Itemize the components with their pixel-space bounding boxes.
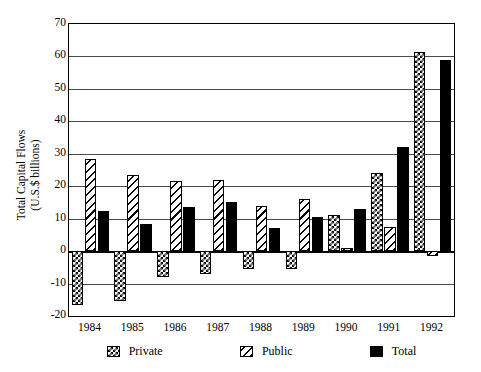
x-axis-tick-label: 1992	[420, 321, 443, 333]
bar-total-1988	[269, 228, 281, 251]
x-axis-tick-label: 1985	[121, 321, 144, 333]
gridline	[69, 284, 454, 285]
y-axis-tick-labels: -20-10010203040506070	[38, 0, 66, 372]
bar-total-1991	[397, 147, 409, 251]
bar-public-1989	[299, 199, 311, 251]
y-axis-tick-label: 0	[40, 244, 66, 256]
bar-public-1984	[85, 159, 97, 251]
bar-total-1992	[440, 60, 452, 251]
x-axis-tick-label: 1984	[78, 321, 101, 333]
y-axis-title-line-1: Total Capital Flows	[15, 130, 29, 221]
bar-public-1986	[170, 181, 182, 251]
gridline	[69, 89, 454, 90]
plot-area	[68, 23, 455, 317]
legend-label: Total	[392, 345, 417, 357]
y-axis-tick-label: 40	[40, 115, 66, 127]
chart-figure: Total Capital Flows (U.S.$ billions) -20…	[0, 0, 481, 372]
bar-total-1987	[226, 202, 238, 251]
legend-label: Public	[262, 345, 293, 357]
y-axis-tick-label: -20	[40, 309, 66, 321]
x-axis-tick-label: 1987	[206, 321, 229, 333]
bar-private-1992	[414, 52, 426, 252]
legend-item-total: Total	[370, 345, 417, 357]
y-axis-tick-label: 30	[40, 147, 66, 159]
bar-public-1990	[341, 248, 353, 251]
y-axis-tick-label: 10	[40, 212, 66, 224]
y-axis-tick-label: 20	[40, 179, 66, 191]
legend-swatch-public-icon	[240, 346, 253, 357]
gridline	[69, 121, 454, 122]
x-axis-tick-label: 1990	[335, 321, 358, 333]
legend-item-public: Public	[240, 345, 293, 357]
y-axis-tick-label: 70	[40, 17, 66, 29]
x-axis-tick-labels: 198419851986198719881989199019911992	[68, 321, 455, 339]
legend-swatch-private-icon	[107, 346, 120, 357]
bar-private-1991	[371, 173, 383, 251]
legend-item-private: Private	[107, 345, 163, 357]
legend-swatch-total-icon	[370, 346, 383, 357]
bar-total-1990	[354, 209, 366, 251]
bar-private-1989	[286, 251, 298, 269]
bar-public-1992	[427, 251, 439, 256]
bar-private-1990	[328, 215, 340, 251]
bar-public-1987	[213, 180, 225, 251]
bar-total-1985	[140, 224, 152, 252]
x-axis-tick-label: 1986	[163, 321, 186, 333]
y-axis-tick-label: 60	[40, 50, 66, 62]
zero-axis-line	[69, 251, 454, 252]
bar-total-1986	[183, 207, 195, 251]
x-axis-tick-label: 1988	[249, 321, 272, 333]
y-axis-tick-label: 50	[40, 82, 66, 94]
y-axis-tick-label: -10	[40, 277, 66, 289]
chart-legend: PrivatePublicTotal	[68, 341, 455, 361]
bar-private-1988	[243, 251, 255, 269]
bar-total-1989	[312, 217, 324, 251]
gridline	[69, 56, 454, 57]
bar-public-1985	[127, 175, 139, 251]
bar-private-1987	[200, 251, 212, 274]
bar-public-1988	[256, 206, 268, 251]
bar-private-1986	[157, 251, 169, 277]
bar-public-1991	[384, 227, 396, 251]
x-axis-tick-label: 1989	[292, 321, 315, 333]
bar-private-1985	[114, 251, 126, 301]
legend-label: Private	[129, 345, 163, 357]
bar-private-1984	[72, 251, 84, 305]
bar-total-1984	[98, 211, 110, 252]
x-axis-tick-label: 1991	[377, 321, 400, 333]
